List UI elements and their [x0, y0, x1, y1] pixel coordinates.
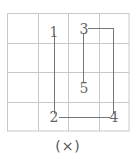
stroke-grid-diagram [0, 0, 136, 159]
point-label-2: 2 [50, 110, 59, 124]
diagram-caption: (×) [55, 138, 81, 154]
point-label-4: 4 [110, 110, 119, 124]
point-label-3: 3 [80, 22, 89, 36]
point-label-1: 1 [50, 25, 59, 39]
point-label-5: 5 [80, 81, 89, 95]
